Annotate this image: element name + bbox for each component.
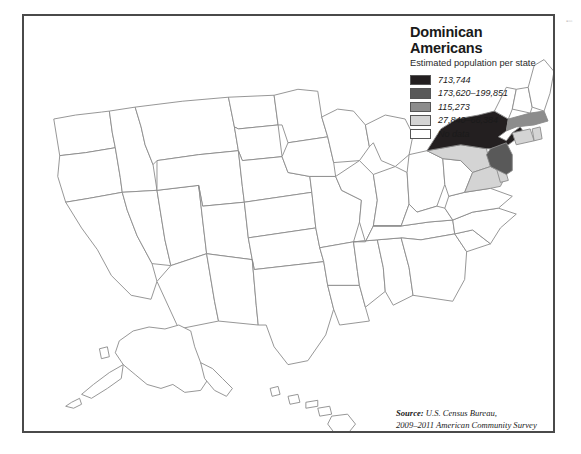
page-edge-marks: ▪▫▫ (566, 16, 580, 27)
legend-label-tier3: 115,273 (438, 103, 470, 112)
legend-label-tier2: 173,620–199,851 (438, 89, 508, 98)
ak-aleutians (66, 398, 82, 408)
state-ak (115, 325, 208, 392)
state-tx (252, 260, 333, 365)
legend-label-nodata: No data (438, 130, 470, 139)
legend-swatch-nodata (410, 129, 431, 140)
hawaii-inset (270, 386, 355, 431)
legend-label-tier4: 27,840–66,384 (438, 116, 498, 125)
source-line2: 2009–2011 American Community Survey (396, 419, 571, 431)
hi-molokai (306, 400, 318, 408)
legend-item-nodata: No data (410, 128, 548, 141)
legend-item-tier2: 173,620–199,851 (410, 87, 548, 100)
legend-item-tier4: 27,840–66,384 (410, 114, 548, 127)
legend-swatch-tier3 (410, 102, 431, 113)
map-legend: Dominican Americans Estimated population… (410, 24, 548, 141)
legend-rows: 713,744 173,620–199,851 115,273 27,840–6… (410, 74, 548, 141)
legend-item-tier3: 115,273 (410, 101, 548, 114)
legend-title: Dominican Americans (410, 24, 548, 56)
source-line1: Source: U.S. Census Bureau, (396, 407, 571, 419)
legend-item-tier1: 713,744 (410, 74, 548, 87)
legend-title-line1: Dominican (410, 24, 548, 40)
hi-kauai (270, 386, 280, 396)
hi-bigisland (328, 414, 356, 431)
legend-swatch-tier1 (410, 75, 431, 86)
state-ia (282, 137, 336, 177)
hi-oahu (288, 394, 300, 404)
hi-maui (318, 406, 332, 416)
legend-swatch-tier4 (410, 115, 431, 126)
legend-subtitle: Estimated population per state (410, 58, 548, 69)
state-oh (407, 151, 445, 212)
map-frame: .st { fill:#ffffff; stroke:#8a8a8a; stro… (22, 14, 555, 433)
ak-panhandle (201, 363, 233, 397)
source-line1-text: U.S. Census Bureau, (424, 408, 497, 418)
state-sd (234, 125, 282, 161)
legend-label-tier1: 713,744 (438, 76, 471, 85)
legend-title-line2: Americans (410, 40, 548, 56)
state-mi (365, 115, 413, 167)
state-in (373, 167, 409, 226)
ak-islands (99, 347, 109, 359)
legend-swatch-tier2 (410, 88, 431, 99)
ak-peninsula (82, 365, 124, 399)
alaska-inset (66, 325, 233, 408)
source-citation: Source: U.S. Census Bureau, 2009–2011 Am… (396, 407, 571, 431)
state-nd (228, 95, 278, 129)
source-lead: Source: (396, 408, 424, 418)
map-page: .st { fill:#ffffff; stroke:#8a8a8a; stro… (0, 0, 581, 454)
state-mn (274, 89, 328, 142)
